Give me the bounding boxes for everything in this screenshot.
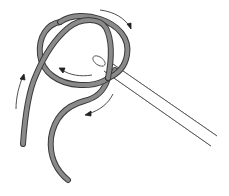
left-tail-arrow-icon <box>16 74 25 109</box>
needle-eye <box>91 54 107 69</box>
knot-illustration <box>0 0 229 196</box>
rope <box>23 16 127 180</box>
center-arrow-icon <box>59 68 92 76</box>
